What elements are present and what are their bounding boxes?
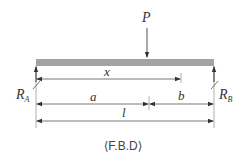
reaction-label-a: RA <box>15 87 30 104</box>
dimension-label-a: a <box>90 89 97 104</box>
reaction-arrow-b <box>211 67 218 89</box>
dimension-label-b: b <box>178 88 185 103</box>
reaction-label-b: RB <box>218 87 233 104</box>
load-label-p: P <box>141 10 151 25</box>
free-body-diagram: P RA RB x a b l ⟨F.B.D⟩ <box>0 0 246 163</box>
reaction-arrow-a <box>33 67 40 89</box>
dimension-label-l: l <box>122 105 126 120</box>
dimension-label-x: x <box>103 64 110 79</box>
beam <box>36 59 214 66</box>
diagram-caption: ⟨F.B.D⟩ <box>104 139 143 153</box>
